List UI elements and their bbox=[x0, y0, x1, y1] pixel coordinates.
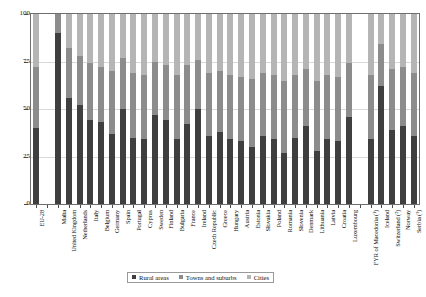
x-axis-tick-mark bbox=[80, 205, 81, 208]
bar-column[interactable] bbox=[206, 14, 212, 204]
x-axis-tick-label: Latvia bbox=[330, 210, 336, 226]
bar-segment-rural-areas bbox=[77, 105, 83, 204]
bar-column[interactable] bbox=[400, 14, 406, 204]
bar-segment-towns-and-suburbs bbox=[227, 75, 233, 140]
x-axis-tick-mark bbox=[112, 205, 113, 208]
legend-label: Cities bbox=[254, 274, 269, 281]
x-axis-tick-mark bbox=[230, 205, 231, 208]
bar-segment-rural-areas bbox=[130, 138, 136, 205]
bar-column[interactable] bbox=[141, 14, 147, 204]
bar-segment-cities bbox=[98, 14, 104, 67]
bar-segment-cities bbox=[271, 14, 277, 75]
legend-item[interactable]: Cities bbox=[247, 274, 269, 281]
bar-column[interactable] bbox=[249, 14, 255, 204]
bar-segment-rural-areas bbox=[249, 147, 255, 204]
bar-column[interactable] bbox=[195, 14, 201, 204]
legend-swatch-icon bbox=[179, 275, 183, 279]
bar-column[interactable] bbox=[184, 14, 190, 204]
bar-segment-cities bbox=[109, 14, 115, 71]
bar-column[interactable] bbox=[33, 14, 39, 204]
bar-column[interactable] bbox=[292, 14, 298, 204]
bar-segment-cities bbox=[77, 14, 83, 56]
bar-segment-rural-areas bbox=[163, 120, 169, 204]
bar-column[interactable] bbox=[98, 14, 104, 204]
bar-segment-cities bbox=[303, 14, 309, 69]
bar-segment-rural-areas bbox=[324, 139, 330, 204]
y-axis-tick-mark bbox=[24, 109, 28, 110]
x-axis-tick-label: Romania bbox=[287, 210, 293, 232]
x-axis-tick-label: Switzerland (²) bbox=[395, 210, 401, 247]
bar-segment-rural-areas bbox=[195, 109, 201, 204]
bar-column[interactable] bbox=[303, 14, 309, 204]
bar-segment-cities bbox=[260, 14, 266, 73]
bars-layer bbox=[31, 14, 419, 204]
bar-column[interactable] bbox=[260, 14, 266, 204]
bar-column[interactable] bbox=[389, 14, 395, 204]
bar-segment-rural-areas bbox=[152, 115, 158, 204]
bar-segment-cities bbox=[217, 14, 223, 71]
x-axis-tick-mark bbox=[381, 205, 382, 208]
bar-segment-rural-areas bbox=[33, 128, 39, 204]
bar-segment-towns-and-suburbs bbox=[368, 75, 374, 140]
x-axis-tick-mark bbox=[47, 205, 48, 208]
bar-column[interactable] bbox=[77, 14, 83, 204]
x-axis-tick-mark bbox=[36, 205, 37, 208]
bar-segment-cities bbox=[206, 14, 212, 73]
bar-column[interactable] bbox=[55, 14, 61, 204]
x-axis-tick-mark bbox=[349, 205, 350, 208]
bar-segment-towns-and-suburbs bbox=[411, 73, 417, 136]
x-axis-line bbox=[30, 204, 420, 205]
bar-column[interactable] bbox=[378, 14, 384, 204]
bar-segment-cities bbox=[335, 14, 341, 77]
bar-column[interactable] bbox=[163, 14, 169, 204]
bar-column[interactable] bbox=[271, 14, 277, 204]
bar-column[interactable] bbox=[87, 14, 93, 204]
x-axis-tick-label: Poland bbox=[276, 210, 282, 227]
x-axis-tick-mark bbox=[306, 205, 307, 208]
bar-column[interactable] bbox=[314, 14, 320, 204]
legend-item[interactable]: Rural areas bbox=[132, 274, 169, 281]
bar-segment-towns-and-suburbs bbox=[303, 69, 309, 126]
x-axis-tick-label: Austria bbox=[244, 210, 250, 228]
legend-item[interactable]: Towns and suburbs bbox=[179, 274, 237, 281]
x-axis-tick-label: FYR of Macedonia (¹) bbox=[373, 210, 379, 265]
x-axis-tick-mark bbox=[295, 205, 296, 208]
x-axis-tick-mark bbox=[263, 205, 264, 208]
bar-column[interactable] bbox=[66, 14, 72, 204]
bar-column[interactable] bbox=[281, 14, 287, 204]
bar-column[interactable] bbox=[238, 14, 244, 204]
x-axis-tick-mark bbox=[403, 205, 404, 208]
bar-column[interactable] bbox=[120, 14, 126, 204]
x-axis-tick-label: Estonia bbox=[255, 210, 261, 228]
x-axis-tick-mark bbox=[144, 205, 145, 208]
bar-segment-cities bbox=[163, 14, 169, 65]
bar-segment-rural-areas bbox=[292, 138, 298, 205]
bar-column[interactable] bbox=[217, 14, 223, 204]
x-axis-tick-mark bbox=[166, 205, 167, 208]
legend-swatch-icon bbox=[132, 275, 136, 279]
bar-column[interactable] bbox=[109, 14, 115, 204]
x-axis-tick-label: Spain bbox=[125, 210, 131, 224]
bar-column[interactable] bbox=[227, 14, 233, 204]
bar-column[interactable] bbox=[335, 14, 341, 204]
x-axis-tick-label: Slovakia bbox=[265, 210, 271, 232]
bar-column[interactable] bbox=[368, 14, 374, 204]
bar-segment-cities bbox=[141, 14, 147, 75]
x-axis-tick-label: Bulgaria bbox=[179, 210, 185, 231]
bar-segment-towns-and-suburbs bbox=[66, 48, 72, 97]
bar-segment-towns-and-suburbs bbox=[281, 81, 287, 153]
y-axis-tick-mark bbox=[24, 204, 28, 205]
bar-segment-rural-areas bbox=[66, 98, 72, 204]
bar-segment-cities bbox=[174, 14, 180, 75]
bar-column[interactable] bbox=[411, 14, 417, 204]
bar-column[interactable] bbox=[174, 14, 180, 204]
bar-segment-towns-and-suburbs bbox=[238, 77, 244, 142]
bar-column[interactable] bbox=[346, 14, 352, 204]
bar-column[interactable] bbox=[152, 14, 158, 204]
bar-segment-towns-and-suburbs bbox=[130, 73, 136, 138]
bar-column[interactable] bbox=[324, 14, 330, 204]
bar-segment-towns-and-suburbs bbox=[152, 62, 158, 115]
x-axis-tick-mark bbox=[220, 205, 221, 208]
bar-segment-rural-areas bbox=[227, 139, 233, 204]
bar-column[interactable] bbox=[130, 14, 136, 204]
